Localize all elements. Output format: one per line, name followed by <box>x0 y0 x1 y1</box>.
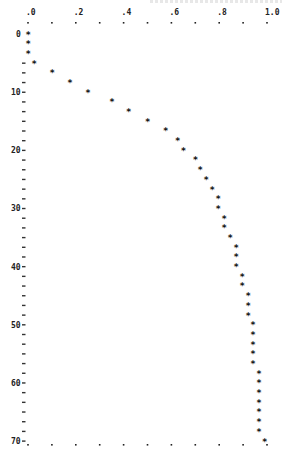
data-point-asterisk: * <box>109 97 114 107</box>
y-tick-mark <box>22 101 26 102</box>
x-axis-bottom <box>27 444 268 446</box>
x-tick-dot <box>218 444 220 446</box>
y-tick-mark <box>22 227 26 228</box>
y-tick-label: 30 <box>11 204 21 213</box>
data-point-asterisk: * <box>216 204 221 214</box>
x-tick-dot <box>123 444 125 446</box>
data-point-asterisk: * <box>175 136 180 146</box>
data-point-asterisk: * <box>193 155 198 165</box>
y-tick-mark <box>22 111 26 112</box>
y-tick-mark <box>22 421 26 422</box>
data-point-asterisk: * <box>26 49 31 59</box>
y-tick-mark <box>22 363 26 364</box>
x-tick-dot <box>51 444 53 446</box>
y-tick-mark <box>22 392 26 393</box>
x-tick-dot <box>99 22 101 24</box>
data-point-asterisk: * <box>227 233 232 243</box>
y-axis-left: 010203040506070 <box>11 30 26 446</box>
y-tick-mark <box>22 305 26 306</box>
data-point-asterisk: * <box>245 291 250 301</box>
x-tick-label: .2 <box>74 8 84 17</box>
x-tick-dot <box>27 444 29 446</box>
data-series: ****************************************… <box>26 30 268 447</box>
y-tick-mark <box>22 208 26 209</box>
data-point-asterisk: * <box>233 252 238 262</box>
data-point-asterisk: * <box>239 281 244 291</box>
data-point-asterisk: * <box>250 349 255 359</box>
x-axis-top: .0.2.4.6.81.0 <box>26 8 280 24</box>
x-tick-dot <box>75 22 77 24</box>
x-tick-dot <box>242 22 244 24</box>
data-point-asterisk: * <box>204 175 209 185</box>
y-tick-mark <box>22 353 26 354</box>
data-point-asterisk: * <box>233 262 238 272</box>
data-point-asterisk: * <box>145 117 150 127</box>
x-tick-dot <box>75 444 77 446</box>
y-tick-mark <box>22 72 26 73</box>
y-tick-mark <box>22 179 26 180</box>
y-tick-mark <box>22 256 26 257</box>
y-tick-label: 20 <box>11 146 21 155</box>
data-point-asterisk: * <box>26 39 31 49</box>
data-point-asterisk: * <box>210 185 215 195</box>
x-tick-dot <box>266 22 268 24</box>
y-tick-mark <box>22 373 26 374</box>
y-tick-mark <box>22 121 26 122</box>
data-point-asterisk: * <box>256 407 261 417</box>
line-printer-plot: .0.2.4.6.81.0 010203040506070 **********… <box>0 0 282 458</box>
y-tick-mark <box>22 411 26 412</box>
data-point-asterisk: * <box>245 301 250 311</box>
data-point-asterisk: * <box>256 388 261 398</box>
data-point-asterisk: * <box>256 417 261 427</box>
data-point-asterisk: * <box>256 378 261 388</box>
y-tick-label: 50 <box>11 321 21 330</box>
x-tick-dot <box>195 22 197 24</box>
x-tick-dot <box>195 444 197 446</box>
data-point-asterisk: * <box>163 126 168 136</box>
data-point-asterisk: * <box>221 214 226 224</box>
data-point-asterisk: * <box>256 369 261 379</box>
y-tick-mark <box>22 82 26 83</box>
y-tick-mark <box>22 130 26 131</box>
x-tick-dot <box>218 22 220 24</box>
y-tick-mark <box>22 343 26 344</box>
y-tick-mark <box>22 62 26 63</box>
x-tick-label: .6 <box>169 8 179 17</box>
x-tick-dot <box>99 444 101 446</box>
data-point-asterisk: * <box>85 88 90 98</box>
data-point-asterisk: * <box>233 243 238 253</box>
data-point-asterisk: * <box>126 107 131 117</box>
y-tick-label: 10 <box>11 88 21 97</box>
y-tick-mark <box>22 198 26 199</box>
y-tick-mark <box>22 247 26 248</box>
y-tick-label: 70 <box>11 437 21 446</box>
x-tick-label: .4 <box>122 8 132 17</box>
x-tick-label: .0 <box>26 8 36 17</box>
x-tick-dot <box>147 444 149 446</box>
y-tick-mark <box>22 266 26 267</box>
data-point-asterisk: * <box>250 359 255 369</box>
y-tick-mark <box>22 159 26 160</box>
y-tick-mark <box>22 140 26 141</box>
y-tick-mark <box>22 218 26 219</box>
y-tick-label: 40 <box>11 263 21 272</box>
data-point-asterisk: * <box>250 320 255 330</box>
data-point-asterisk: * <box>250 330 255 340</box>
data-point-asterisk: * <box>49 68 54 78</box>
y-tick-mark <box>22 150 26 151</box>
y-tick-mark <box>22 285 26 286</box>
data-point-asterisk: * <box>239 272 244 282</box>
x-tick-dot <box>27 22 29 24</box>
data-point-asterisk: * <box>256 427 261 437</box>
y-tick-mark <box>22 402 26 403</box>
data-point-asterisk: * <box>198 165 203 175</box>
y-tick-mark <box>22 431 26 432</box>
data-point-asterisk: * <box>26 30 31 40</box>
y-tick-mark <box>22 334 26 335</box>
x-tick-dot <box>51 22 53 24</box>
data-point-asterisk: * <box>31 59 36 69</box>
y-tick-mark <box>22 188 26 189</box>
x-tick-label: .8 <box>217 8 227 17</box>
x-tick-dot <box>147 22 149 24</box>
data-point-asterisk: * <box>221 223 226 233</box>
